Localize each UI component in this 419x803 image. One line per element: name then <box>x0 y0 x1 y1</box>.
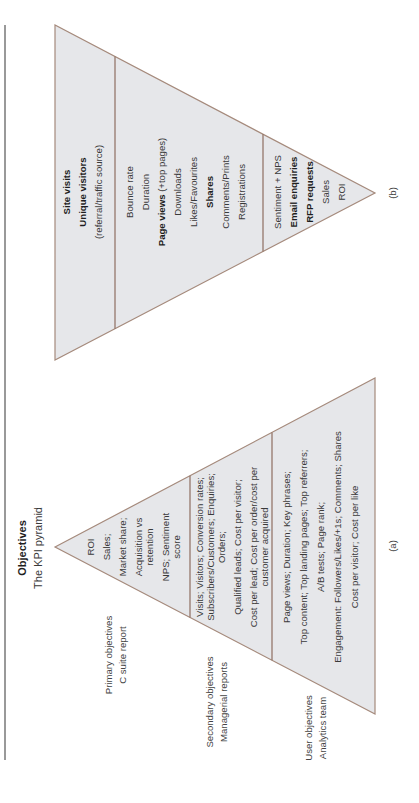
side-label-user-sub: Analytics team <box>317 697 328 759</box>
level-item: (referral/traffic source) <box>93 145 104 239</box>
level-item: Page views; Duration; Key phrases; <box>281 471 292 623</box>
level-item: A/B tests; Page rank; <box>315 502 326 592</box>
level-item: Sentiment + NPS <box>272 155 283 229</box>
level-item: Registrations <box>236 164 247 220</box>
level-item: Unique visitors <box>77 157 88 226</box>
level-item: Likes/Favourites <box>188 157 199 227</box>
level-item-suffix: (+top pages) <box>156 138 167 195</box>
level-item: ROI <box>85 538 96 555</box>
pyramid-a: ROI Sales; Market share; Acquisition vs … <box>55 378 398 761</box>
level-item: Sales; <box>101 534 112 561</box>
level-item: score <box>171 535 182 558</box>
side-label-primary: Primary objectives <box>103 616 114 695</box>
pyramid-b-caption: (b) <box>387 187 398 199</box>
pyramid-a-level-2: Visits; Visitors; Conversion rates; Subs… <box>194 466 270 627</box>
level-item: RFP requests <box>304 161 315 223</box>
pyramid-b: Site visits Unique visitors (referral/tr… <box>55 25 398 360</box>
page-title: Objectives <box>16 520 28 576</box>
kpi-pyramid-figure: Site visits Unique visitors (referral/tr… <box>0 0 419 803</box>
level-item: Sales <box>320 180 331 204</box>
level-item: Site visits <box>61 170 72 215</box>
level-item: Cost per lead; Cost per order/cost per <box>248 466 259 627</box>
level-item: ROI <box>336 183 347 200</box>
level-item: Subscribers/Customers; Enquiries; <box>205 473 216 621</box>
level-item: Top content; Top landing pages; Top refe… <box>298 450 309 645</box>
side-label-user: User objectives <box>303 695 314 761</box>
side-label-secondary: Secondary objectives <box>204 656 215 747</box>
level-item: Duration <box>140 174 151 210</box>
level-item: retention <box>144 528 155 565</box>
level-item: Visits; Visitors; Conversion rates; <box>194 477 205 617</box>
level-item: Orders; <box>216 531 227 563</box>
level-item: Qualified leads; Cost per visitor; <box>232 479 243 614</box>
figure-header: Objectives The KPI pyramid <box>16 507 44 589</box>
pyramid-a-caption: (a) <box>387 540 398 552</box>
side-label-primary-sub: C suite report <box>117 626 128 684</box>
level-item: Acquisition vs <box>133 517 144 576</box>
level-item: Cost per visitor; Cost per like <box>349 486 360 609</box>
level-item-bold: Page views <box>156 195 167 247</box>
level-item: NPS; Sentiment <box>160 513 171 582</box>
level-item: Market share; <box>117 518 128 577</box>
side-label-secondary-sub: Managerial reports <box>218 662 229 742</box>
level-item: Bounce rate <box>124 166 135 218</box>
level-item: Email enquiries <box>288 157 299 228</box>
level-item: Downloads <box>172 168 183 216</box>
level-item: customer acquired <box>259 508 270 587</box>
level-item: Engagement: Followers/Likes/+1s; Comment… <box>332 431 343 663</box>
level-item: Page views (+top pages) <box>156 138 167 247</box>
page-subtitle: The KPI pyramid <box>32 507 44 589</box>
level-item: Shares <box>204 176 215 208</box>
level-item: Comments/Prints <box>220 155 231 229</box>
